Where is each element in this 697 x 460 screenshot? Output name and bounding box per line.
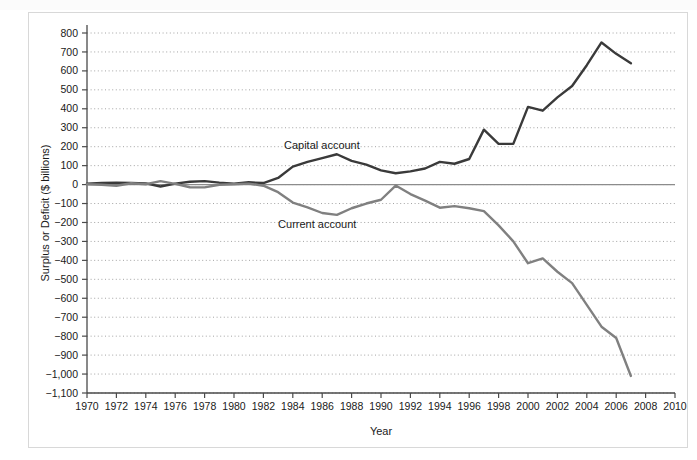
x-tick-label: 2006 xyxy=(605,400,629,412)
y-axis-title: Surplus or Deficit ($ billions) xyxy=(39,145,51,282)
x-tick-label: 1998 xyxy=(487,400,511,412)
series-line-capital-account xyxy=(87,42,631,186)
y-tick-label: −300 xyxy=(54,235,78,247)
x-tick-label: 1976 xyxy=(164,400,188,412)
x-tick-label: 2002 xyxy=(546,400,570,412)
x-tick-label: 1984 xyxy=(281,400,305,412)
series-label-capital-account: Capital account xyxy=(284,139,360,151)
y-tick-label: 400 xyxy=(60,102,78,114)
y-tick-label: 700 xyxy=(60,46,78,58)
x-tick-label: 1994 xyxy=(428,400,452,412)
y-tick-label: −1,000 xyxy=(46,368,79,380)
x-tick-label: 2010 xyxy=(663,400,687,412)
line-chart: 8007006005004003002001000−100−200−300−40… xyxy=(29,13,687,447)
x-axis-title: Year xyxy=(370,425,393,437)
x-tick-label: 2008 xyxy=(634,400,658,412)
y-tick-label: 600 xyxy=(60,64,78,76)
y-tick-label: 100 xyxy=(60,159,78,171)
y-tick-label: −500 xyxy=(54,273,78,285)
figure-page: 8007006005004003002001000−100−200−300−40… xyxy=(0,0,697,460)
y-tick-label: 800 xyxy=(60,27,78,39)
x-tick-label: 1992 xyxy=(399,400,423,412)
y-tick-label: −200 xyxy=(54,216,78,228)
x-tick-label: 1980 xyxy=(222,400,246,412)
scan-artifact xyxy=(0,0,697,10)
y-tick-label: 300 xyxy=(60,121,78,133)
x-tick-label: 1990 xyxy=(369,400,393,412)
y-tick-label: −400 xyxy=(54,254,78,266)
y-tick-label: −700 xyxy=(54,311,78,323)
y-tick-label: −1,100 xyxy=(46,387,79,399)
y-tick-label: −100 xyxy=(54,197,78,209)
chart-figure: 8007006005004003002001000−100−200−300−40… xyxy=(28,12,688,448)
x-tick-label: 2000 xyxy=(516,400,540,412)
x-tick-label: 1986 xyxy=(311,400,335,412)
series-label-current-account: Current account xyxy=(278,218,356,230)
x-tick-label: 2004 xyxy=(575,400,599,412)
x-tick-label: 1970 xyxy=(75,400,99,412)
y-tick-label: −900 xyxy=(54,349,78,361)
y-tick-label: −800 xyxy=(54,330,78,342)
y-tick-label: 200 xyxy=(60,140,78,152)
x-tick-label: 1978 xyxy=(193,400,217,412)
x-tick-label: 1974 xyxy=(134,400,158,412)
x-tick-label: 1996 xyxy=(458,400,482,412)
x-tick-label: 1972 xyxy=(105,400,129,412)
y-tick-label: 500 xyxy=(60,83,78,95)
x-tick-label: 1988 xyxy=(340,400,364,412)
y-tick-label: −600 xyxy=(54,292,78,304)
y-tick-label: 0 xyxy=(72,178,78,190)
series-line-current-account xyxy=(87,181,631,376)
x-tick-label: 1982 xyxy=(252,400,276,412)
